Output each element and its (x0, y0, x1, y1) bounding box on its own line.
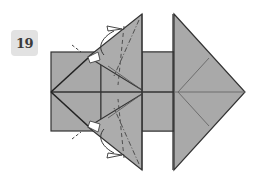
lower-flap-dash-guide (72, 132, 81, 139)
upper-flap-dash-guide (72, 45, 81, 52)
origami-diagram (0, 0, 259, 183)
lower-arrowhead (107, 153, 122, 158)
upper-arrowhead (107, 26, 122, 31)
